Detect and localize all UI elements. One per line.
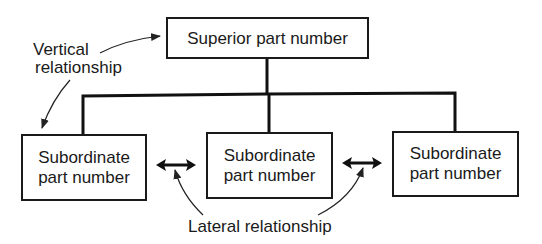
subordinate-part-box-2: Subordinate part number [207,133,332,198]
subordinate-3-line1: Subordinate [410,144,502,163]
subordinate-part-box-3: Subordinate part number [393,132,518,196]
vertical-relationship-label-line2: relationship [35,58,122,77]
subordinate-2-line1: Subordinate [224,146,316,165]
subordinate-part-box-1: Subordinate part number [22,135,146,200]
hierarchy-diagram: Superior part number Subordinate part nu… [0,0,542,244]
subordinate-3-line2: part number [410,164,502,183]
lateral-double-arrow-left-icon [156,159,196,171]
vertical-relationship-label-line1: Vertical [33,40,89,59]
subordinate-2-line2: part number [224,166,316,185]
tree-connectors [83,58,455,135]
superior-part-box: Superior part number [167,18,368,58]
vertical-arrow-up-icon [100,36,160,53]
lateral-relationship-label: Lateral relationship [188,217,332,236]
lateral-arrow-left-icon [175,170,203,215]
superior-part-label: Superior part number [187,29,348,48]
subordinate-1-line2: part number [38,168,130,187]
subordinate-1-line1: Subordinate [38,148,130,167]
vertical-arrow-down-icon [42,80,70,128]
lateral-double-arrow-right-icon [342,157,382,169]
